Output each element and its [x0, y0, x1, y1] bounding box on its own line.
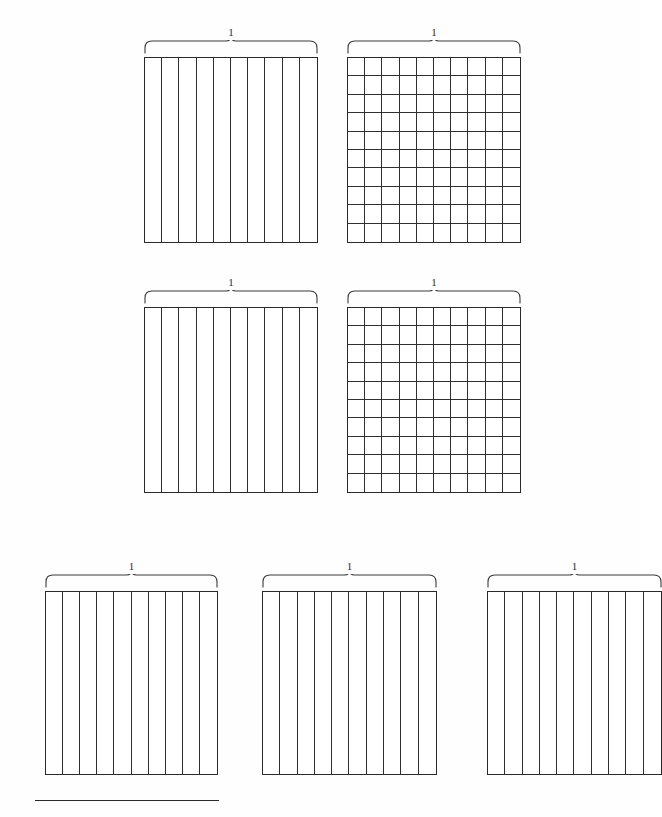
grid-cell[interactable]	[434, 437, 451, 455]
grid-cell[interactable]	[400, 113, 417, 131]
grid-cell[interactable]	[231, 308, 248, 492]
grid-cell[interactable]	[451, 76, 468, 94]
grid-cell[interactable]	[265, 58, 282, 242]
grid-cell[interactable]	[417, 308, 434, 326]
grid-cell[interactable]	[365, 205, 382, 223]
grid-cell[interactable]	[503, 150, 520, 168]
grid-cell[interactable]	[298, 592, 315, 774]
grid-cell[interactable]	[503, 113, 520, 131]
grid-cell[interactable]	[197, 308, 214, 492]
grid-cell[interactable]	[486, 382, 503, 400]
grid-cell[interactable]	[468, 382, 485, 400]
grid-cell[interactable]	[265, 308, 282, 492]
grid-cell[interactable]	[626, 592, 643, 774]
grid-cell[interactable]	[468, 363, 485, 381]
hundredths-grid[interactable]	[347, 57, 521, 243]
grid-cell[interactable]	[365, 168, 382, 186]
grid-cell[interactable]	[348, 224, 365, 242]
grid-cell[interactable]	[283, 308, 300, 492]
grid-cell[interactable]	[451, 363, 468, 381]
grid-cell[interactable]	[382, 400, 399, 418]
grid-cell[interactable]	[365, 113, 382, 131]
grid-cell[interactable]	[400, 326, 417, 344]
grid-cell[interactable]	[367, 592, 384, 774]
grid-cell[interactable]	[468, 58, 485, 76]
grid-cell[interactable]	[503, 168, 520, 186]
grid-cell[interactable]	[503, 382, 520, 400]
grid-cell[interactable]	[384, 592, 401, 774]
grid-cell[interactable]	[365, 224, 382, 242]
grid-cell[interactable]	[348, 326, 365, 344]
grid-cell[interactable]	[468, 205, 485, 223]
grid-cell[interactable]	[503, 437, 520, 455]
grid-cell[interactable]	[486, 308, 503, 326]
grid-cell[interactable]	[434, 382, 451, 400]
grid-cell[interactable]	[348, 205, 365, 223]
grid-cell[interactable]	[486, 205, 503, 223]
grid-cell[interactable]	[486, 224, 503, 242]
grid-cell[interactable]	[365, 455, 382, 473]
grid-cell[interactable]	[263, 592, 280, 774]
grid-cell[interactable]	[451, 95, 468, 113]
grid-cell[interactable]	[503, 345, 520, 363]
grid-cell[interactable]	[283, 58, 300, 242]
grid-cell[interactable]	[417, 382, 434, 400]
grid-cell[interactable]	[468, 224, 485, 242]
grid-cell[interactable]	[451, 308, 468, 326]
grid-cell[interactable]	[417, 418, 434, 436]
grid-cell[interactable]	[451, 345, 468, 363]
grid-cell[interactable]	[400, 187, 417, 205]
grid-cell[interactable]	[434, 455, 451, 473]
grid-cell[interactable]	[382, 326, 399, 344]
tenths-grid[interactable]	[262, 591, 437, 775]
grid-cell[interactable]	[365, 187, 382, 205]
grid-cell[interactable]	[417, 224, 434, 242]
grid-cell[interactable]	[540, 592, 557, 774]
grid-cell[interactable]	[486, 345, 503, 363]
grid-cell[interactable]	[382, 205, 399, 223]
grid-cell[interactable]	[417, 363, 434, 381]
grid-cell[interactable]	[417, 113, 434, 131]
grid-cell[interactable]	[434, 345, 451, 363]
grid-cell[interactable]	[417, 455, 434, 473]
grid-cell[interactable]	[179, 308, 196, 492]
grid-cell[interactable]	[503, 58, 520, 76]
grid-cell[interactable]	[382, 363, 399, 381]
grid-cell[interactable]	[468, 437, 485, 455]
grid-cell[interactable]	[382, 150, 399, 168]
grid-cell[interactable]	[451, 326, 468, 344]
grid-cell[interactable]	[434, 150, 451, 168]
grid-cell[interactable]	[434, 58, 451, 76]
tenths-grid[interactable]	[487, 591, 662, 775]
grid-cell[interactable]	[400, 363, 417, 381]
grid-cell[interactable]	[434, 363, 451, 381]
grid-cell[interactable]	[348, 187, 365, 205]
grid-cell[interactable]	[400, 345, 417, 363]
grid-cell[interactable]	[434, 400, 451, 418]
grid-cell[interactable]	[248, 308, 265, 492]
grid-cell[interactable]	[503, 205, 520, 223]
grid-cell[interactable]	[400, 58, 417, 76]
grid-cell[interactable]	[149, 592, 166, 774]
grid-cell[interactable]	[365, 363, 382, 381]
grid-cell[interactable]	[486, 187, 503, 205]
grid-cell[interactable]	[434, 224, 451, 242]
grid-cell[interactable]	[348, 345, 365, 363]
grid-cell[interactable]	[382, 187, 399, 205]
grid-cell[interactable]	[486, 474, 503, 492]
grid-cell[interactable]	[434, 326, 451, 344]
grid-cell[interactable]	[400, 132, 417, 150]
grid-cell[interactable]	[486, 132, 503, 150]
grid-cell[interactable]	[434, 95, 451, 113]
tenths-grid[interactable]	[144, 57, 318, 243]
grid-cell[interactable]	[214, 308, 231, 492]
grid-cell[interactable]	[557, 592, 574, 774]
grid-cell[interactable]	[486, 326, 503, 344]
grid-cell[interactable]	[400, 76, 417, 94]
grid-cell[interactable]	[486, 437, 503, 455]
grid-cell[interactable]	[486, 58, 503, 76]
grid-cell[interactable]	[365, 58, 382, 76]
tenths-grid[interactable]	[45, 591, 218, 775]
grid-cell[interactable]	[401, 592, 418, 774]
grid-cell[interactable]	[400, 437, 417, 455]
